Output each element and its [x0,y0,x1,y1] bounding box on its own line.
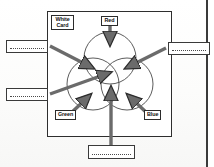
label-white-card: White Card [51,15,74,30]
writing-rule [10,48,44,49]
arrow-left-top [50,46,89,66]
answer-box-right-top[interactable] [168,42,210,55]
worksheet-figure: White Card Red Green Blue [0,0,214,167]
answer-box-left-top[interactable] [6,40,48,53]
answer-box-bottom[interactable] [88,145,135,159]
writing-rule [10,96,44,97]
answer-box-left-bottom[interactable] [6,88,48,101]
writing-rule [172,50,206,51]
writing-rule [92,154,131,155]
label-red: Red [101,16,118,26]
label-green: Green [55,110,76,120]
arrow-left-bottom [50,74,106,94]
label-blue: Blue [144,110,161,120]
